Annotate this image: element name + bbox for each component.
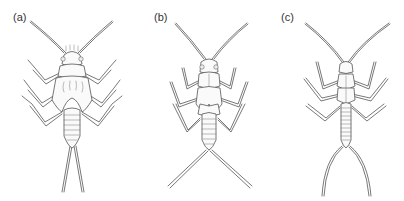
figure-drawings — [0, 0, 404, 201]
insect-figure: (a) (b) (c) — [0, 0, 404, 201]
insect-b-illustration — [168, 23, 252, 188]
insect-a-illustration — [22, 21, 122, 192]
insect-c-illustration — [304, 23, 390, 196]
